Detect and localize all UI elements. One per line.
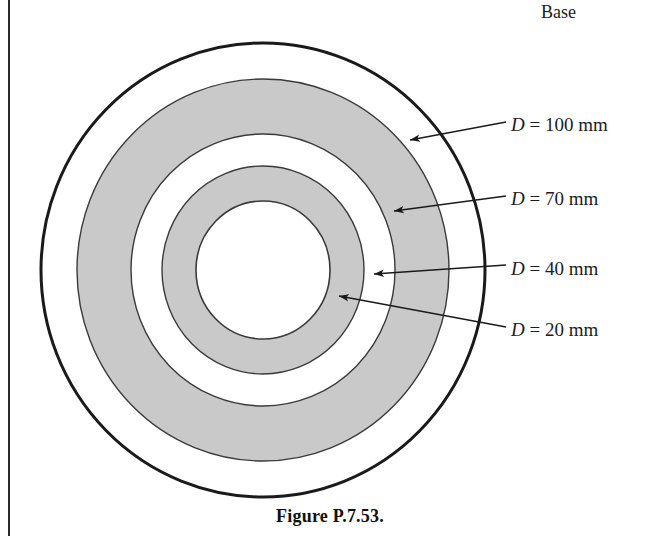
figure-page: Base D = 100 mm D = 70 mm D = 40 mm D = … [0,0,660,536]
base-label: Base [541,2,576,23]
dimension-label-20mm: D = 20 mm [511,320,598,339]
dimension-symbol: D [511,319,525,340]
dimension-symbol: D [511,258,525,279]
dimension-symbol: D [511,188,525,209]
dimension-label-40mm: D = 40 mm [511,259,598,278]
figure-caption: Figure P.7.53. [0,506,660,527]
dimension-symbol: D [511,114,525,135]
dimension-label-100mm: D = 100 mm [511,115,608,134]
dimension-label-70mm: D = 70 mm [511,189,598,208]
ring-inner-bore [196,201,330,339]
